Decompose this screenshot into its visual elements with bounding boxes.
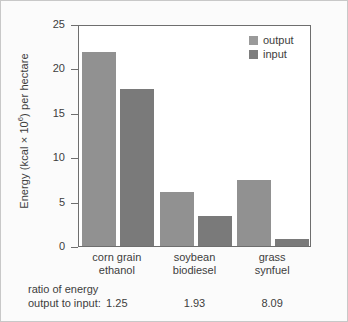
- y-axis-tick-25: [71, 25, 78, 26]
- legend-label-input: input: [263, 49, 287, 60]
- bar-input-corn-grain-ethanol: [120, 89, 154, 246]
- legend-swatch-input-icon: [249, 50, 258, 59]
- y-axis-tick-20: [71, 69, 78, 70]
- y-axis-tick-label-10: 10: [25, 152, 65, 163]
- x-axis-label-line-1: soybean: [156, 251, 234, 264]
- y-axis-tick-label-15: 15: [25, 108, 65, 119]
- ratio-caption-line-1: ratio of energy: [28, 282, 101, 296]
- legend-swatch-output-icon: [249, 36, 258, 45]
- y-axis-tick-label-0: 0: [25, 241, 65, 252]
- y-axis-tick-5: [71, 203, 78, 204]
- bar-output-grass-synfuel: [237, 180, 271, 246]
- bar-output-corn-grain-ethanol: [82, 52, 116, 246]
- x-axis-label-line-2: biodiesel: [156, 264, 234, 277]
- legend-item-output: output: [249, 34, 294, 47]
- y-axis-title: Energy (kcal × 106) per hectare: [15, 19, 33, 243]
- legend-item-input: input: [249, 48, 294, 61]
- x-axis-label-line-2: synfuel: [233, 264, 311, 277]
- y-axis-tick-15: [71, 114, 78, 115]
- y-axis-tick-0: [71, 247, 78, 248]
- bar-output-soybean-biodiesel: [160, 192, 194, 246]
- y-axis-title-exponent: 6: [16, 117, 25, 121]
- x-axis-label-line-2: ethanol: [78, 264, 156, 277]
- x-axis-label-grass-synfuel: grasssynfuel: [233, 251, 311, 277]
- y-axis-tick-10: [71, 158, 78, 159]
- legend-label-output: output: [263, 35, 294, 46]
- x-axis-label-line-1: corn grain: [78, 251, 156, 264]
- y-axis-tick-label-20: 20: [25, 63, 65, 74]
- bar-input-soybean-biodiesel: [198, 216, 232, 246]
- x-axis-label-soybean-biodiesel: soybeanbiodiesel: [156, 251, 234, 277]
- legend: outputinput: [249, 34, 294, 62]
- ratio-value-corn-grain-ethanol: 1.25: [78, 296, 156, 310]
- bar-input-grass-synfuel: [275, 239, 309, 246]
- ratio-value-soybean-biodiesel: 1.93: [156, 296, 234, 310]
- x-axis-label-line-1: grass: [233, 251, 311, 264]
- y-axis-tick-label-25: 25: [25, 19, 65, 30]
- y-axis-tick-label-5: 5: [25, 197, 65, 208]
- x-axis-label-corn-grain-ethanol: corn grainethanol: [78, 251, 156, 277]
- energy-balance-bar-chart-figure: Energy (kcal × 106) per hectare 25201510…: [0, 0, 348, 322]
- ratio-value-grass-synfuel: 8.09: [233, 296, 311, 310]
